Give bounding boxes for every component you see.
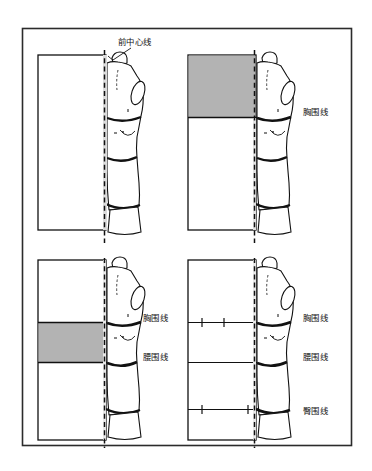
shaded-region-bust-to-waist (39, 323, 106, 363)
figure-root: 前中心线 (0, 0, 372, 471)
label-front-center-line: 前中心线 (118, 37, 152, 47)
bust-point-2 (272, 131, 274, 133)
label-bust-line-2: 胸围线 (303, 107, 329, 117)
bust-point-3 (122, 336, 124, 338)
fabric-sheet-1 (38, 55, 106, 230)
fabric-sheet-4 (188, 260, 256, 440)
label-bust-line-4: 胸围线 (303, 313, 329, 323)
form-base-4 (258, 412, 291, 440)
label-bust-line-3: 胸围线 (143, 313, 169, 323)
form-base-1 (108, 207, 141, 235)
bust-point-1 (122, 131, 124, 133)
form-base-2 (258, 207, 291, 235)
form-base-3 (108, 412, 141, 440)
draping-diagram-svg: 前中心线 (0, 0, 372, 471)
label-waist-line-3: 腰围线 (143, 352, 169, 362)
shaded-region-above-bust (189, 56, 256, 118)
label-waist-line-4: 腰围线 (303, 352, 329, 362)
bust-point-4 (272, 336, 274, 338)
label-hip-line-4: 臀围线 (303, 406, 329, 416)
